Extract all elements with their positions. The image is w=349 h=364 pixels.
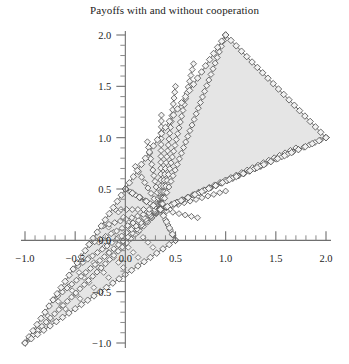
chord-marker [144,139,150,145]
chord-marker [223,188,229,194]
chord-marker [211,191,217,197]
chord-marker [188,213,194,219]
chart-container: Payoffs with and without cooperation −1.… [0,0,349,364]
y-tick-label: −1.0 [92,338,111,349]
chart-plot-area: −1.0−0.50.00.51.01.52.0−1.0−0.50.00.51.0… [0,0,349,364]
chord-marker [173,83,179,89]
chord-marker [158,118,164,124]
y-tick-label: 0.0 [98,235,111,246]
chord-marker [182,212,188,218]
chord-marker [191,61,197,67]
y-tick-label: −0.5 [92,287,111,298]
y-tick-label: 1.5 [98,81,111,92]
chord-marker [189,67,195,73]
chord-marker [195,215,201,221]
y-tick-label: 0.5 [98,184,111,195]
x-tick-label: 1.0 [219,253,232,264]
chord-marker [217,190,223,196]
chord-marker [172,89,178,95]
chord-marker [170,101,176,107]
x-tick-label: 2.0 [319,253,332,264]
chord-marker [205,193,211,199]
y-tick-label: 1.0 [98,133,111,144]
x-tick-label: 0.0 [119,253,132,264]
chord-marker [170,209,176,215]
chord-marker [158,112,164,118]
x-tick-label: 1.5 [269,253,282,264]
chord-marker [171,95,177,101]
x-tick-label: −1.0 [15,253,34,264]
x-tick-label: −0.5 [66,253,85,264]
x-tick-label: 0.5 [169,253,182,264]
y-tick-label: 2.0 [98,30,111,41]
chord-marker [188,72,194,78]
chord-marker [176,211,182,217]
